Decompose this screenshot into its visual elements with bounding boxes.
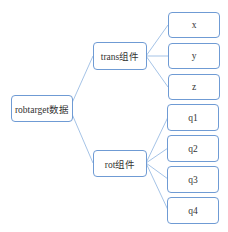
leaf-q4: q4	[167, 197, 219, 224]
trans-component-node: trans组件	[93, 42, 147, 70]
leaf-q2: q2	[167, 135, 219, 162]
rot-component-node: rot组件	[93, 150, 147, 177]
leaf-q1: q1	[167, 104, 219, 131]
leaf-y: y	[168, 43, 220, 69]
leaf-x: x	[168, 12, 220, 38]
leaf-q3: q3	[167, 166, 219, 193]
leaf-z: z	[168, 74, 220, 100]
root-node: robtarget数据	[11, 95, 73, 122]
